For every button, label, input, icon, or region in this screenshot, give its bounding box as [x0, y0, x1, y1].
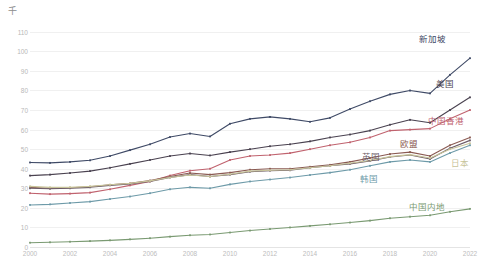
data-point-marker [469, 96, 471, 98]
data-point-marker [309, 174, 311, 176]
data-point-marker [449, 211, 451, 213]
data-point-marker [329, 223, 331, 225]
data-point-marker [129, 183, 131, 185]
data-point-marker [409, 151, 411, 153]
data-point-marker [69, 186, 71, 188]
x-axis-tick-label: 2000 [23, 250, 37, 257]
data-point-marker [149, 159, 151, 161]
data-point-marker [109, 198, 111, 200]
data-point-marker [349, 222, 351, 224]
data-point-marker [389, 153, 391, 155]
data-point-marker [229, 159, 231, 161]
data-point-marker [409, 129, 411, 131]
data-point-marker [209, 155, 211, 157]
line-chart: 千 0102030405060708090100110 200020022004… [0, 0, 488, 277]
data-point-marker [189, 172, 191, 174]
series-line [30, 145, 470, 205]
x-axis-tick-label: 2012 [263, 250, 277, 257]
data-point-marker [229, 172, 231, 174]
data-point-marker [209, 168, 211, 170]
data-point-marker [289, 227, 291, 229]
series-label: 欧盟 [400, 137, 418, 149]
data-point-marker [249, 148, 251, 150]
data-point-marker [249, 155, 251, 157]
data-point-marker [309, 225, 311, 227]
series-label: 中国香港 [428, 114, 464, 126]
data-point-marker [329, 165, 331, 167]
data-point-marker [89, 170, 91, 172]
data-point-marker [329, 117, 331, 119]
data-point-marker [289, 152, 291, 154]
data-point-marker [389, 130, 391, 132]
x-axis-tick-label: 2010 [223, 250, 237, 257]
data-point-marker [269, 168, 271, 170]
data-point-marker [269, 154, 271, 156]
data-point-marker [289, 118, 291, 120]
data-point-marker [449, 144, 451, 146]
data-point-marker [109, 188, 111, 190]
data-point-marker [309, 140, 311, 142]
data-point-marker [169, 155, 171, 157]
data-point-marker [49, 241, 51, 243]
data-point-marker [209, 176, 211, 178]
data-point-marker [69, 193, 71, 195]
data-point-marker [209, 187, 211, 189]
series-label: 英国 [362, 150, 380, 162]
data-point-marker [149, 143, 151, 145]
data-point-marker [169, 236, 171, 238]
data-point-marker [449, 74, 451, 76]
data-point-marker [429, 157, 431, 159]
data-point-marker [389, 156, 391, 158]
data-point-marker [349, 169, 351, 171]
data-point-marker [189, 153, 191, 155]
x-axis-tick-label: 2008 [183, 250, 197, 257]
y-axis-tick-label: 110 [2, 28, 28, 35]
series-lines [30, 22, 470, 247]
data-point-marker [369, 165, 371, 167]
data-point-marker [249, 118, 251, 120]
data-point-marker [69, 172, 71, 174]
data-point-marker [169, 136, 171, 138]
data-point-marker [249, 170, 251, 172]
data-point-marker [69, 241, 71, 243]
data-point-marker [269, 179, 271, 181]
data-point-marker [289, 143, 291, 145]
data-point-marker [29, 204, 31, 206]
series-label: 中国内地 [409, 200, 445, 212]
data-point-marker [129, 238, 131, 240]
data-point-marker [89, 240, 91, 242]
data-point-marker [389, 217, 391, 219]
x-axis-tick-label: 2022 [463, 250, 477, 257]
y-axis-tick-label: 100 [2, 48, 28, 55]
data-point-marker [29, 242, 31, 244]
data-point-marker [349, 108, 351, 110]
data-point-marker [49, 174, 51, 176]
data-point-marker [329, 144, 331, 146]
x-axis-tick-label: 2002 [63, 250, 77, 257]
data-point-marker [89, 159, 91, 161]
data-point-marker [229, 123, 231, 125]
data-point-marker [229, 183, 231, 185]
x-axis-tick-label: 2006 [143, 250, 157, 257]
data-point-marker [469, 109, 471, 111]
data-point-marker [149, 192, 151, 194]
data-point-marker [369, 130, 371, 132]
data-point-marker [369, 137, 371, 139]
data-point-marker [449, 152, 451, 154]
data-point-marker [469, 137, 471, 139]
data-point-marker [269, 228, 271, 230]
data-point-marker [309, 121, 311, 123]
data-point-marker [129, 149, 131, 151]
series-label: 美国 [436, 77, 454, 89]
series-label: 日本 [451, 156, 469, 168]
data-point-marker [69, 202, 71, 204]
y-axis-tick-label: 80 [2, 87, 28, 94]
data-point-marker [49, 162, 51, 164]
data-point-marker [429, 214, 431, 216]
data-point-marker [389, 161, 391, 163]
data-point-marker [429, 93, 431, 95]
x-axis-tick-label: 2014 [303, 250, 317, 257]
data-point-marker [129, 163, 131, 165]
data-point-marker [209, 136, 211, 138]
series-line [30, 209, 470, 243]
